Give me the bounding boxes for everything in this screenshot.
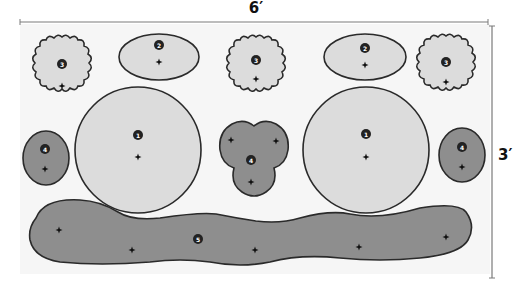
svg-text:2: 2 (363, 45, 367, 52)
piece-3-scalloped-left: 3 (33, 35, 92, 91)
width-dimension: 6′ (20, 0, 488, 25)
svg-text:4: 4 (43, 146, 47, 153)
svg-text:3: 3 (444, 59, 448, 66)
svg-text:3: 3 (60, 61, 64, 68)
piece-4-oval-right: 4 (439, 128, 485, 182)
piece-2-oval-right: 2 (324, 34, 406, 80)
svg-text:5: 5 (196, 236, 200, 243)
piece-3-scalloped-right: 3 (417, 34, 476, 90)
piece-3-scalloped-middle: 3 (227, 35, 286, 91)
svg-text:1: 1 (364, 131, 368, 138)
svg-text:2: 2 (157, 42, 161, 49)
width-label: 6′ (249, 0, 263, 17)
height-dimension: 3′ (489, 26, 512, 278)
height-label: 3′ (498, 146, 512, 164)
piece-2-oval-left: 2 (119, 34, 199, 80)
svg-text:3: 3 (254, 57, 258, 64)
svg-text:1: 1 (136, 132, 140, 139)
piece-1-circle-right: 1 (303, 87, 429, 213)
layout-diagram: 6′ 3′ 3 2 3 2 3 (0, 0, 518, 291)
svg-text:4: 4 (460, 144, 464, 151)
piece-1-circle-left: 1 (75, 87, 201, 213)
svg-text:4: 4 (249, 157, 253, 164)
piece-4-oval-left: 4 (23, 131, 69, 185)
